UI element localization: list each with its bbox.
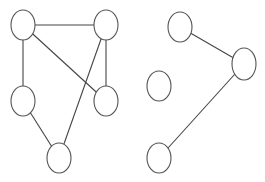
graph-node-n3 xyxy=(11,86,35,116)
graph-node-n2 xyxy=(94,10,118,40)
graph-diagram xyxy=(0,0,265,182)
graph-node-n7 xyxy=(232,48,256,80)
graph-canvas xyxy=(0,0,265,182)
edge-n7-n9 xyxy=(159,64,244,158)
graph-node-n4 xyxy=(94,86,118,116)
graph-node-n1 xyxy=(11,10,35,40)
edge-n1-n4 xyxy=(23,25,106,101)
edges-layer xyxy=(23,25,244,158)
graph-node-n8 xyxy=(147,71,171,101)
graph-node-n6 xyxy=(168,12,192,42)
graph-node-n5 xyxy=(47,143,71,173)
graph-node-n9 xyxy=(147,143,171,173)
